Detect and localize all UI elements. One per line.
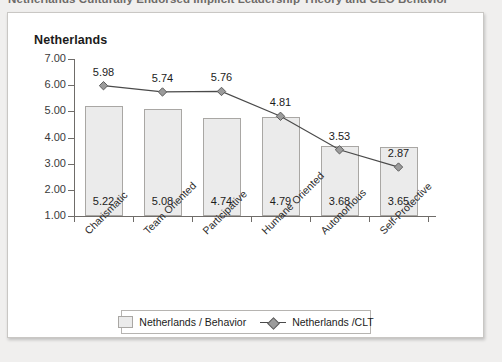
line-marker <box>335 146 343 154</box>
line-value-label: 4.81 <box>253 96 309 108</box>
plot-area: 7.006.005.004.003.002.001.00 5.225.084.7… <box>8 13 485 339</box>
line-value-label: 5.76 <box>194 71 250 83</box>
line-value-label: 3.53 <box>312 130 368 142</box>
chart-card: Netherlands 7.006.005.004.003.002.001.00… <box>7 12 484 338</box>
line-marker <box>158 88 166 96</box>
page-title: Netherlands Culturally Endorsed Implicit… <box>8 0 488 5</box>
line-marker <box>99 81 107 89</box>
line-value-label: 2.87 <box>371 147 427 159</box>
line-marker <box>394 163 402 171</box>
legend-label-behavior: Netherlands / Behavior <box>139 316 246 328</box>
legend-label-clt: Netherlands /CLT <box>292 316 374 328</box>
line-path <box>104 86 399 167</box>
legend-item-clt: Netherlands /CLT <box>260 316 374 328</box>
chart-legend: Netherlands / Behavior Netherlands /CLT <box>121 310 371 334</box>
line-marker <box>276 112 284 120</box>
line-value-label: 5.98 <box>76 66 132 78</box>
legend-bar-swatch-icon <box>118 316 133 328</box>
line-marker <box>217 87 225 95</box>
line-series <box>8 13 485 339</box>
line-value-label: 5.74 <box>135 72 191 84</box>
legend-line-marker-icon <box>260 317 286 327</box>
legend-item-behavior: Netherlands / Behavior <box>118 316 246 328</box>
